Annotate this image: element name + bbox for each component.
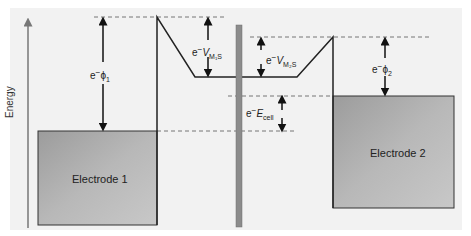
potential-profile-line (157, 17, 333, 225)
phi1-sub: 1 (106, 76, 110, 83)
phi2-sub: 2 (388, 70, 392, 77)
electrode-1-label: Electrode 1 (72, 174, 128, 185)
electrode-2-label: Electrode 2 (370, 148, 426, 159)
vm2s-label: e−VM₂S (266, 53, 296, 68)
separator-bar (236, 25, 242, 227)
energy-diagram (0, 0, 471, 236)
vm1s-sub: M₁S (209, 53, 222, 60)
vm2s-sub: M₂S (283, 61, 296, 68)
vm1s-label: e−VM₁S (192, 45, 222, 60)
phi2-label: e−ϕ2 (372, 62, 392, 77)
phi1-label: e−ϕ1 (90, 68, 110, 83)
ecell-label: e−Ecell (246, 106, 274, 121)
ecell-sub: cell (263, 114, 274, 121)
energy-axis-label: Energy (4, 86, 15, 118)
